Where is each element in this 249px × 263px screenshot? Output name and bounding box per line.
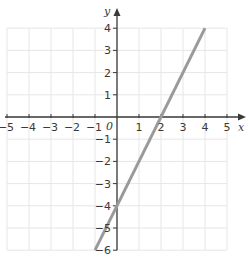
origin-label: 0	[106, 120, 113, 133]
x-axis-label: x	[238, 121, 245, 134]
y-axis-label: y	[103, 5, 111, 18]
y-tick-label: 2	[104, 67, 111, 80]
tick-labels: −5−4−3−2−1123454321−1−2−3−4−5−60xy	[0, 5, 245, 257]
x-tick-label: 4	[202, 121, 209, 134]
x-tick-label: −4	[20, 121, 36, 134]
y-axis-arrow-icon	[114, 8, 121, 16]
y-tick-label: −4	[95, 200, 111, 213]
y-tick-label: −5	[95, 222, 111, 235]
x-tick-label: −1	[86, 121, 102, 134]
x-axis-arrow-icon	[238, 114, 246, 121]
x-tick-label: 2	[158, 121, 165, 134]
y-tick-label: −6	[95, 244, 111, 257]
x-tick-label: 5	[224, 121, 231, 134]
x-tick-label: −3	[42, 121, 58, 134]
y-tick-label: 1	[104, 89, 111, 102]
y-tick-label: 3	[104, 44, 111, 57]
x-tick-label: −5	[0, 121, 14, 134]
x-tick-label: −2	[64, 121, 80, 134]
coordinate-plane: −5−4−3−2−1123454321−1−2−3−4−5−60xy	[0, 0, 249, 263]
y-tick-label: 4	[104, 22, 111, 35]
y-tick-label: −1	[95, 133, 111, 146]
y-tick-label: −2	[95, 155, 111, 168]
x-tick-label: 3	[180, 121, 187, 134]
y-tick-label: −3	[95, 178, 111, 191]
x-tick-label: 1	[136, 121, 143, 134]
